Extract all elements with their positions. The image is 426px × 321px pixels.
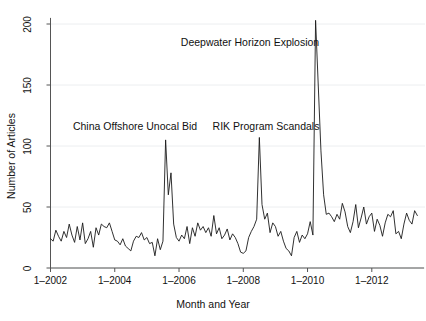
x-axis-title: Month and Year — [0, 298, 426, 310]
gridlines-group — [51, 24, 426, 268]
x-tick-label: 1–2004 — [98, 275, 131, 286]
x-tick-label: 1–2010 — [291, 275, 324, 286]
series-line-number-of-articles — [51, 20, 418, 255]
y-tick-label-wrapper: 100 — [21, 129, 34, 163]
chart-annotation-label: China Offshore Unocal Bid — [73, 120, 197, 132]
y-tick-label-wrapper: 150 — [21, 68, 34, 102]
x-tick-label: 1–2006 — [162, 275, 195, 286]
x-tick-label: 1–2012 — [355, 275, 388, 286]
x-tick-label: 1–2002 — [34, 275, 67, 286]
chart-annotation-label: RIK Program Scandals — [213, 120, 320, 132]
y-tick-label: 0 — [21, 251, 32, 285]
axis-spines-group — [51, 18, 425, 268]
chart-figure: 1–20021–20041–20061–20081–20101–2012 050… — [0, 0, 426, 321]
y-tick-label-wrapper: 0 — [21, 251, 34, 285]
y-tick-label-wrapper: 200 — [21, 7, 34, 41]
y-axis-title: Number of Articles — [5, 81, 17, 231]
line-chart-plot — [0, 0, 426, 321]
x-tick-label: 1–2008 — [227, 275, 260, 286]
y-tick-label-wrapper: 50 — [21, 190, 34, 224]
y-tick-label: 100 — [21, 129, 32, 163]
y-axis-title-wrapper: Number of Articles — [5, 81, 21, 231]
y-tick-label: 150 — [21, 68, 32, 102]
y-tick-label: 50 — [21, 190, 32, 224]
chart-annotation-label: Deepwater Horizon Explosion — [181, 36, 319, 48]
y-tick-label: 200 — [21, 7, 32, 41]
